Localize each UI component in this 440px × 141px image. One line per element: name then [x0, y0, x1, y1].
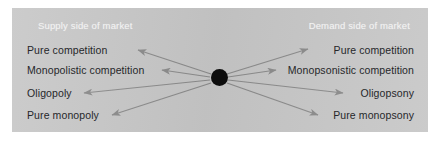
arrow-supply-pure-monopoly	[112, 83, 211, 115]
label-supply-pure-monopoly: Pure monopoly	[27, 109, 99, 121]
label-demand-pure-competition: Pure competition	[334, 44, 414, 56]
label-demand-oligopsony: Oligopsony	[360, 87, 414, 99]
label-supply-pure-competition: Pure competition	[27, 44, 107, 56]
heading-demand-side: Demand side of market	[309, 20, 410, 31]
arrow-demand-pure-monopsony	[227, 83, 318, 115]
label-supply-monopolistic-competition: Monopolistic competition	[27, 64, 144, 76]
label-supply-oligopoly: Oligopoly	[27, 87, 72, 99]
label-demand-pure-monopsony: Pure monopsony	[333, 109, 414, 121]
label-demand-monopsonistic-competition: Monopsonistic competition	[288, 64, 414, 76]
market-structure-diagram: Supply side of market Demand side of mar…	[0, 0, 440, 141]
arrow-supply-oligopoly	[84, 80, 210, 93]
diagram-panel: Supply side of market Demand side of mar…	[12, 8, 428, 132]
heading-supply-side: Supply side of market	[38, 20, 133, 31]
arrow-supply-pure-competition	[138, 50, 211, 74]
arrow-demand-oligopsony	[228, 80, 343, 93]
market-center-node	[211, 69, 228, 86]
